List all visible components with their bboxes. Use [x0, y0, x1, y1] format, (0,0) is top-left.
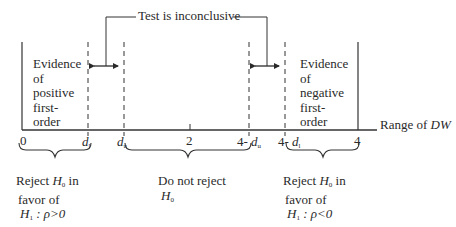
tick-label-4-dl: 4- dl [278, 135, 301, 154]
rp-suffix: in [65, 173, 78, 188]
4-du-prefix: 4- [237, 134, 251, 149]
reject-positive-line-2: favor of [16, 193, 79, 208]
tick-label-dl: dl [82, 135, 90, 154]
reject-positive-line-1: Reject H0 in [16, 174, 79, 193]
dl-sub: l [89, 142, 91, 150]
reject-positive-text: Reject H0 in favor of H1 : ρ>0 [16, 174, 79, 226]
positive-line-3: positive [33, 86, 81, 101]
rp-h: H [52, 173, 61, 188]
positive-evidence-text: Evidence of positive first- order [33, 57, 81, 130]
4-du-sub: u [258, 142, 262, 150]
tick-label-0: 0 [20, 134, 27, 149]
rp-h1: H [20, 206, 29, 221]
dnr-h: H [161, 188, 170, 203]
reject-negative-line-2: favor of [283, 193, 346, 208]
rp-prefix: Reject [16, 173, 52, 188]
negative-line-5: order [300, 115, 348, 130]
negative-line-2: of [300, 72, 348, 87]
4-dl-prefix: 4- [278, 134, 292, 149]
negative-evidence-text: Evidence of negative first- order [300, 57, 348, 130]
rn-prefix: Reject [283, 173, 319, 188]
positive-line-1: Evidence [33, 57, 81, 72]
positive-line-5: order [33, 115, 81, 130]
positive-line-2: of [33, 72, 81, 87]
brace-reject-positive [19, 143, 91, 157]
callout-connector-right [233, 17, 267, 66]
dnr-h-sub: 0 [170, 196, 174, 204]
rn-h1-rest: : ρ<0 [300, 206, 332, 221]
dnr-line-1: Do not reject [158, 174, 226, 189]
rn-suffix: in [332, 173, 345, 188]
reject-positive-line-3: H1 : ρ>0 [16, 207, 79, 226]
rn-h1: H [287, 206, 296, 221]
du-sub: u [124, 142, 128, 150]
axis-label: Range of DW [380, 118, 451, 133]
reject-negative-text: Reject H0 in favor of H1 : ρ<0 [283, 174, 346, 226]
callout-connector-left [106, 17, 136, 66]
negative-line-4: first- [300, 101, 348, 116]
axis-label-prefix: Range of [380, 117, 431, 132]
test-inconclusive-label: Test is inconclusive [138, 9, 240, 24]
tick-label-2: 2 [186, 134, 193, 149]
reject-negative-line-1: Reject H0 in [283, 174, 346, 193]
rp-h1-rest: : ρ>0 [33, 206, 65, 221]
dnr-line-2: H0 [158, 189, 226, 208]
axis-label-var: DW [431, 117, 451, 132]
rn-h: H [319, 173, 328, 188]
positive-line-4: first- [33, 101, 81, 116]
tick-label-4: 4 [354, 134, 361, 149]
reject-negative-line-3: H1 : ρ<0 [283, 207, 346, 226]
do-not-reject-text: Do not reject H0 [158, 174, 226, 207]
negative-line-1: Evidence [300, 57, 348, 72]
negative-line-3: negative [300, 86, 348, 101]
tick-label-4-du: 4- du [237, 135, 261, 154]
tick-label-du: du [117, 135, 127, 154]
4-dl-sub: l [299, 142, 301, 150]
